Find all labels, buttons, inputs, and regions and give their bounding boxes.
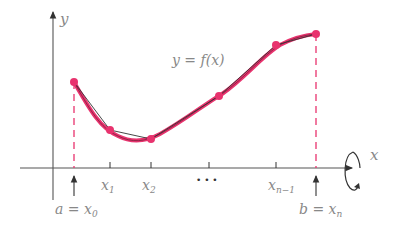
ellipsis: • • •	[196, 175, 218, 185]
diagram-canvas: y x y = f(x) x1 x2 • • • xn−1 a = x0 b =…	[0, 0, 408, 246]
rotation-arrow-icon	[345, 152, 360, 190]
point-p4	[272, 41, 280, 49]
curve-f	[74, 34, 316, 141]
point-p3	[215, 92, 223, 100]
point-p0	[70, 78, 78, 86]
polygon-approximation	[74, 34, 316, 139]
curve-label: y = f(x)	[171, 52, 225, 68]
point-p1	[106, 126, 114, 134]
y-axis-label: y	[59, 10, 69, 28]
x-axis-label: x	[370, 146, 379, 164]
point-p2	[147, 135, 155, 143]
label-b-xn: b = xn	[299, 201, 343, 219]
point-pn	[312, 30, 320, 38]
curve-f-dark	[74, 34, 316, 141]
label-a-x0: a = x0	[55, 201, 98, 219]
tick-label-x2: x2	[142, 177, 156, 195]
tick-label-x1: x1	[101, 177, 115, 195]
tick-label-xn-1: xn−1	[268, 177, 295, 195]
